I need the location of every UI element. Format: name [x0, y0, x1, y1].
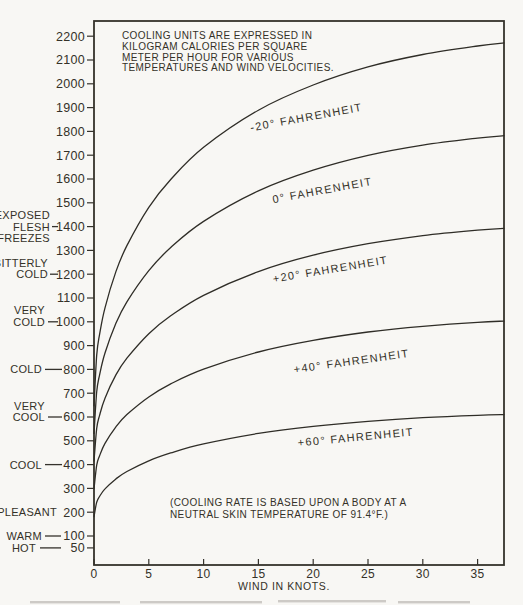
- x-tick-label: 10: [197, 567, 211, 581]
- sensation-label: FREEZES: [0, 232, 50, 244]
- y-tick-label: 600: [63, 410, 85, 424]
- y-tick-label: 1700: [56, 149, 85, 163]
- caption-fragment: [278, 600, 386, 602]
- body-note-line: (COOLING RATE IS BASED UPON A BODY AT A: [170, 497, 407, 508]
- sensation-label: COOL: [13, 411, 45, 423]
- y-axis: 2200210020001900180017001600150014001300…: [56, 30, 94, 556]
- x-tick-label: 15: [251, 567, 265, 581]
- y-tick-label: 50: [70, 541, 85, 555]
- y-tick-label: 300: [63, 482, 85, 496]
- sensation-scale: EXPOSEDFLESHFREEZESBITTERLYCOLDVERYCOLDC…: [0, 209, 62, 554]
- y-tick-label: 1400: [56, 220, 85, 234]
- y-tick-label: 200: [63, 506, 85, 520]
- y-tick-label: 1100: [57, 291, 85, 305]
- figure-page: 2200210020001900180017001600150014001300…: [0, 0, 523, 605]
- sensation-label: BITTERLY: [0, 257, 48, 269]
- units-note-line: METER PER HOUR FOR VARIOUS: [122, 52, 294, 63]
- x-tick-label: 25: [361, 567, 375, 581]
- wind-chill-cooling-chart: 2200210020001900180017001600150014001300…: [0, 0, 523, 605]
- y-tick-label: 1300: [56, 244, 85, 258]
- plot-frame: [94, 21, 504, 565]
- y-tick-label: 400: [63, 458, 85, 472]
- sensation-label: PLEASANT: [0, 506, 57, 518]
- temperature-curve: [94, 43, 504, 406]
- temperature-curve: [94, 321, 504, 489]
- y-tick-label: 1500: [56, 196, 85, 210]
- y-tick-label: 800: [63, 363, 85, 377]
- y-tick-label: 1200: [56, 268, 85, 282]
- x-axis-title: WIND IN KNOTS.: [238, 580, 330, 592]
- body-note-line: NEUTRAL SKIN TEMPERATURE OF 91.4°F.): [170, 509, 388, 520]
- units-note-line: COOLING UNITS ARE EXPRESSED IN: [122, 30, 312, 41]
- caption-fragment: [398, 601, 470, 603]
- sensation-label: FLESH: [13, 221, 50, 233]
- y-tick-label: 1800: [56, 125, 85, 139]
- curve-labels: -20° FAHRENHEIT0° FAHRENHEIT+20° FAHRENH…: [249, 101, 414, 449]
- sensation-label: VERY: [14, 400, 45, 412]
- sensation-label: WARM: [6, 530, 42, 542]
- sensation-label: COLD: [16, 268, 48, 280]
- cropped-caption-fragments: [30, 600, 470, 603]
- y-tick-label: 700: [63, 387, 85, 401]
- sensation-label: EXPOSED: [0, 209, 50, 221]
- temperature-curve: [94, 136, 504, 434]
- sensation-label: HOT: [12, 542, 36, 554]
- y-tick-label: 2200: [56, 30, 85, 44]
- x-tick-label: 20: [306, 567, 320, 581]
- sensation-label: COLD: [10, 363, 42, 375]
- x-axis: 05101520253035WIND IN KNOTS.: [91, 559, 485, 592]
- x-tick-label: 5: [145, 567, 152, 581]
- y-tick-label: 500: [63, 434, 85, 448]
- curve-label: +20° FAHRENHEIT: [272, 253, 389, 284]
- x-tick-label: 0: [91, 567, 98, 581]
- x-tick-label: 30: [416, 567, 430, 581]
- units-note-line: TEMPERATURES AND WIND VELOCITIES.: [122, 62, 334, 73]
- curve-label: +60° FAHRENHEIT: [297, 425, 414, 448]
- caption-fragment: [140, 601, 262, 603]
- caption-fragment: [30, 601, 120, 603]
- y-tick-label: 2000: [56, 77, 85, 91]
- sensation-label: COLD: [13, 316, 45, 328]
- curve-label: +40° FAHRENHEIT: [293, 347, 410, 375]
- plot-border: [94, 21, 504, 565]
- x-tick-label: 35: [471, 567, 485, 581]
- y-tick-label: 1900: [56, 101, 85, 115]
- y-tick-label: 1600: [56, 172, 85, 186]
- sensation-label: VERY: [14, 304, 45, 316]
- y-tick-label: 1000: [56, 315, 85, 329]
- y-tick-label: 2100: [56, 53, 85, 67]
- sensation-label: COOL: [10, 459, 42, 471]
- annotations: COOLING UNITS ARE EXPRESSED INKILOGRAM C…: [122, 30, 407, 520]
- y-tick-label: 900: [63, 339, 85, 353]
- units-note-line: KILOGRAM CALORIES PER SQUARE: [122, 41, 308, 52]
